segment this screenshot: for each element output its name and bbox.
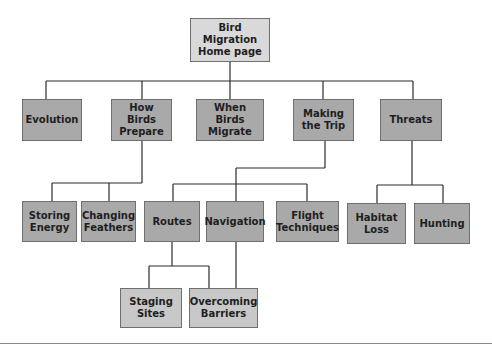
node-threats: Threats	[380, 99, 442, 141]
node-label: Changing Feathers	[82, 210, 135, 234]
node-label: Navigation	[204, 216, 265, 228]
node-label: Overcoming Barriers	[190, 296, 258, 320]
node-making-the-trip: Making the Trip	[293, 99, 354, 141]
horizontal-divider	[0, 343, 492, 344]
node-label: Routes	[152, 216, 191, 228]
node-label: Flight Techniques	[276, 210, 339, 234]
node-label: When Birds Migrate	[199, 102, 261, 138]
node-staging-sites: Staging Sites	[120, 288, 182, 328]
node-label: How Birds Prepare	[114, 102, 169, 138]
node-bird-migration-home-page: Bird Migration Home page	[190, 18, 270, 62]
node-hunting: Hunting	[414, 203, 470, 244]
node-overcoming-barriers: Overcoming Barriers	[189, 288, 258, 328]
node-label: Hunting	[419, 218, 464, 230]
node-label: Evolution	[26, 114, 79, 126]
node-evolution: Evolution	[22, 99, 82, 141]
node-how-birds-prepare: How Birds Prepare	[111, 99, 172, 141]
node-changing-feathers: Changing Feathers	[81, 201, 136, 242]
site-map-diagram: Bird Migration Home page Evolution How B…	[0, 0, 492, 350]
node-navigation: Navigation	[206, 201, 264, 242]
node-label: Staging Sites	[129, 296, 173, 320]
node-habitat-loss: Habitat Loss	[347, 203, 406, 244]
node-label: Making the Trip	[302, 108, 345, 132]
node-flight-techniques: Flight Techniques	[276, 201, 339, 242]
node-label: Threats	[389, 114, 432, 126]
node-when-birds-migrate: When Birds Migrate	[196, 99, 264, 141]
node-storing-energy: Storing Energy	[22, 201, 77, 242]
node-label: Storing Energy	[29, 210, 71, 234]
node-routes: Routes	[144, 201, 200, 242]
node-label: Habitat Loss	[355, 212, 397, 236]
node-label: Bird Migration Home page	[193, 22, 267, 58]
